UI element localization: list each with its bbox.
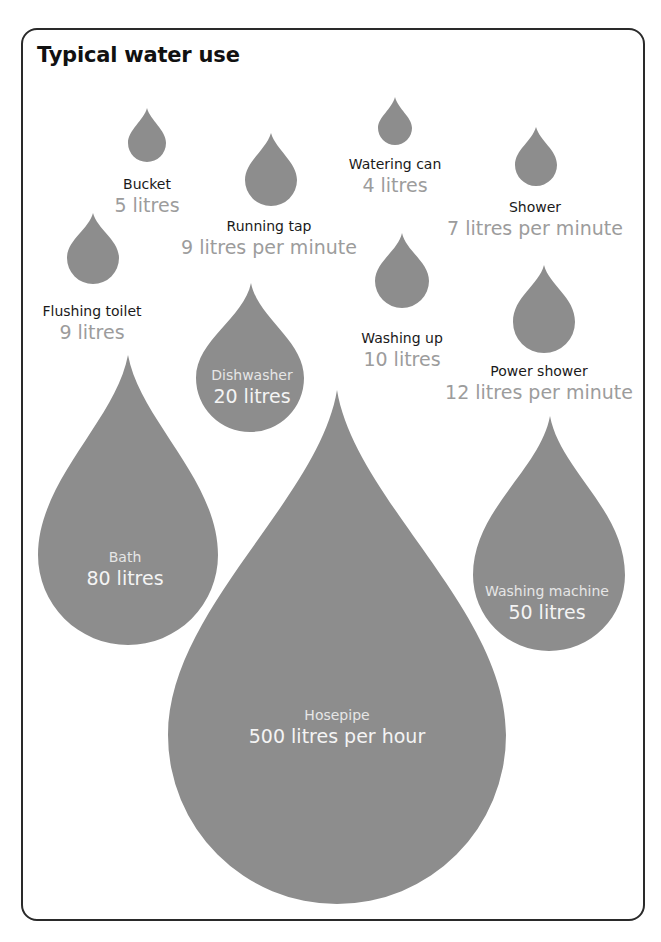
hosepipe-drop-icon [168, 390, 506, 904]
item-value: 10 litres [361, 350, 443, 369]
bath-drop-icon [38, 355, 218, 645]
item-value: 5 litres [114, 196, 179, 215]
running-tap-drop-icon [245, 133, 297, 206]
drops-layer [0, 0, 661, 942]
item-name: Bucket [114, 177, 179, 191]
item-name: Washing machine [485, 584, 609, 598]
item-value: 9 litres per minute [181, 238, 357, 257]
item-value: 80 litres [86, 569, 163, 588]
item-value: 500 litres per hour [249, 727, 425, 746]
shower-drop-icon [515, 127, 557, 186]
item-power-shower: Power shower 12 litres per minute [445, 364, 633, 402]
item-name: Power shower [445, 364, 633, 378]
item-flushing-toilet: Flushing toilet 9 litres [42, 304, 141, 342]
item-dishwasher: Dishwasher 20 litres [211, 368, 292, 406]
item-name: Flushing toilet [42, 304, 141, 318]
dishwasher-drop-icon [196, 283, 304, 432]
item-value: 9 litres [42, 323, 141, 342]
item-value: 50 litres [485, 603, 609, 622]
item-value: 7 litres per minute [447, 219, 623, 238]
item-hosepipe: Hosepipe 500 litres per hour [249, 708, 425, 746]
item-bath: Bath 80 litres [86, 550, 163, 588]
washing-up-drop-icon [375, 233, 429, 308]
item-name: Washing up [361, 331, 443, 345]
item-name: Bath [86, 550, 163, 564]
item-name: Watering can [349, 157, 442, 171]
item-shower: Shower 7 litres per minute [447, 200, 623, 238]
bucket-drop-icon [128, 108, 166, 162]
item-bucket: Bucket 5 litres [114, 177, 179, 215]
item-value: 4 litres [349, 176, 442, 195]
item-value: 12 litres per minute [445, 383, 633, 402]
item-value: 20 litres [211, 387, 292, 406]
item-name: Shower [447, 200, 623, 214]
item-running-tap: Running tap 9 litres per minute [181, 219, 357, 257]
item-name: Dishwasher [211, 368, 292, 382]
item-name: Running tap [181, 219, 357, 233]
flushing-toilet-drop-icon [67, 213, 119, 284]
item-washing-up: Washing up 10 litres [361, 331, 443, 369]
power-shower-drop-icon [513, 265, 575, 353]
item-washing-machine: Washing machine 50 litres [485, 584, 609, 622]
watering-can-drop-icon [378, 97, 412, 145]
item-name: Hosepipe [249, 708, 425, 722]
item-watering-can: Watering can 4 litres [349, 157, 442, 195]
